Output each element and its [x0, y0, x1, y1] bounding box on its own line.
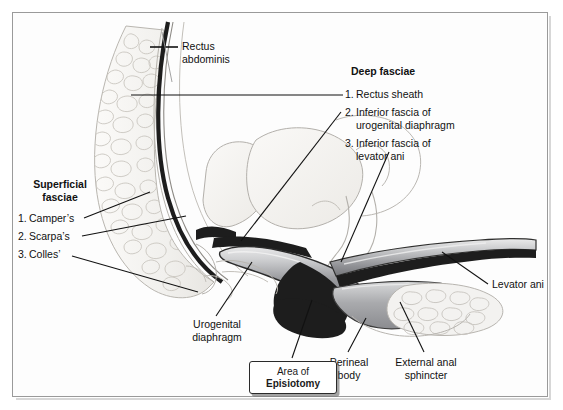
deep-fasciae-item-1-number: 1. — [345, 88, 356, 101]
anatomical-figure: Rectus abdominis Deep fasciae 1.Rectus s… — [0, 0, 563, 410]
superficial-fasciae-item-3-label: Colles’ — [29, 248, 61, 260]
callout-line-1: Area of — [277, 366, 309, 378]
superficial-fasciae-item-3-number: 3. — [18, 248, 29, 261]
superficial-fasciae-item-1: 1.Camper’s — [18, 212, 74, 225]
deep-fasciae-item-1-label: Rectus sheath — [356, 88, 423, 100]
label-urogenital-diaphragm: Urogenital diaphragm — [176, 318, 258, 343]
callout-area-of-episiotomy[interactable]: Area of Episiotomy — [249, 361, 337, 394]
deep-fasciae-item-2-label: Inferior fascia of — [356, 106, 431, 118]
deep-fasciae-item-3: 3.Inferior fascia of levator ani — [345, 137, 431, 162]
superficial-fasciae-item-1-label: Camper’s — [29, 212, 74, 224]
label-rectus-abdominis: Rectus abdominis — [182, 40, 230, 65]
leader-perineal-body — [348, 318, 366, 352]
label-levator-ani: Levator ani — [492, 278, 544, 291]
deep-fasciae-item-3-label: Inferior fascia of — [356, 137, 431, 149]
superficial-fasciae-item-2: 2.Scarpa’s — [18, 230, 70, 243]
heading-deep-fasciae: Deep fasciae — [351, 65, 415, 78]
superficial-fasciae-item-2-number: 2. — [18, 230, 29, 243]
heading-superficial-fasciae: Superficial fasciae — [18, 178, 102, 203]
deep-fasciae-item-3-number: 3. — [345, 137, 356, 150]
superficial-fasciae-item-3: 3.Colles’ — [18, 248, 61, 261]
label-external-anal-sphincter: External anal sphincter — [386, 356, 466, 381]
deep-fasciae-item-1: 1.Rectus sheath — [345, 88, 423, 101]
deep-fasciae-item-2-label-line2: urogenital diaphragm — [345, 119, 455, 132]
deep-fasciae-item-2-number: 2. — [345, 106, 356, 119]
anatomy-illustration — [0, 0, 563, 410]
leader-urogenital-diaphragm — [216, 262, 252, 316]
callout-line-2: Episiotomy — [266, 378, 320, 390]
superficial-fasciae-item-2-label: Scarpa’s — [29, 230, 70, 242]
deep-fasciae-item-3-label-line2: levator ani — [345, 150, 431, 163]
deep-fasciae-item-2: 2.Inferior fascia of urogenital diaphrag… — [345, 106, 455, 131]
superficial-fasciae-item-1-number: 1. — [18, 212, 29, 225]
